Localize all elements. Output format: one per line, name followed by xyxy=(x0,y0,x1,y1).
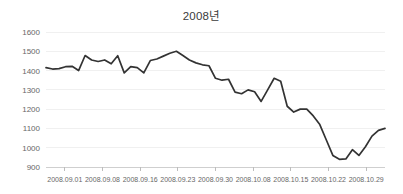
x-axis-labels: 2008.09.012008.09.082008.09.162008.09.23… xyxy=(47,176,383,183)
chart-container: 2008년 1600150014001300120011001000900 20… xyxy=(0,0,403,194)
x-axis-tick-label: 2008.09.30 xyxy=(198,176,233,183)
x-axis-tick-label: 2008.10.29 xyxy=(349,176,384,183)
y-axis-tick-label: 1200 xyxy=(22,105,40,114)
x-axis-tick-label: 2008.10.08 xyxy=(236,176,271,183)
gridlines-group xyxy=(46,32,385,148)
y-axis-tick-label: 1300 xyxy=(22,86,40,95)
x-axis-tick-label: 2008.10.15 xyxy=(273,176,308,183)
x-axis-tick-label: 2008.09.08 xyxy=(85,176,120,183)
data-series-line xyxy=(46,51,385,159)
x-axis-tick-label: 2008.09.23 xyxy=(160,176,195,183)
x-axis-tick-label: 2008.10.22 xyxy=(311,176,346,183)
y-axis-labels: 1600150014001300120011001000900 xyxy=(22,28,40,172)
y-axis-tick-label: 1600 xyxy=(22,28,40,37)
line-chart-plot: 1600150014001300120011001000900 2008.09.… xyxy=(0,0,403,194)
y-axis-tick-label: 1400 xyxy=(22,67,40,76)
x-axis-tick-label: 2008.09.01 xyxy=(47,176,82,183)
y-axis-tick-label: 1100 xyxy=(23,124,41,133)
y-axis-tick-label: 1500 xyxy=(22,47,40,56)
x-axis xyxy=(46,167,385,171)
x-axis-tick-label: 2008.09.16 xyxy=(123,176,158,183)
y-axis-tick-label: 1000 xyxy=(22,144,40,153)
y-axis-tick-label: 900 xyxy=(27,163,41,172)
